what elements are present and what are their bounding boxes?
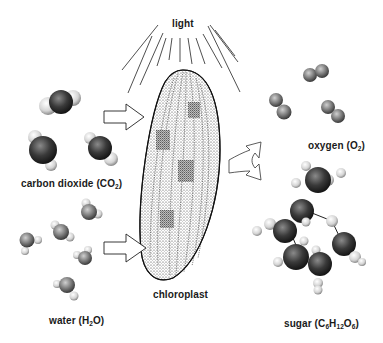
water-molecule <box>73 246 92 265</box>
label-sugar: sugar (C6H12O6) <box>284 318 359 329</box>
arrow-co2-in <box>104 104 144 130</box>
sugar-molecule <box>252 161 366 295</box>
o2-molecule <box>321 100 345 123</box>
co2-close: ) <box>119 178 122 189</box>
water-molecule <box>81 199 103 221</box>
co2-molecule <box>39 90 81 115</box>
water-molecule <box>51 221 75 242</box>
label-chloroplast: chloroplast <box>153 289 208 300</box>
photosynthesis-diagram: light carbon dioxide (CO2) water (H2O) c… <box>0 0 383 343</box>
sugar-sub-o: 6 <box>352 323 356 330</box>
chloroplast-text: chloroplast <box>153 289 208 300</box>
oxygen-name: oxygen (O <box>308 140 358 151</box>
water-subscript: 2 <box>89 320 93 327</box>
water-molecule <box>53 277 79 301</box>
label-light: light <box>172 18 194 29</box>
sugar-prefix: sugar (C <box>284 318 325 329</box>
sugar-o: O <box>344 318 352 329</box>
oxygen-close: ) <box>362 140 365 151</box>
water-name: water (H <box>49 315 89 326</box>
label-oxygen: oxygen (O2) <box>308 140 365 151</box>
sugar-sub-c: 6 <box>325 323 329 330</box>
sugar-close: ) <box>355 318 358 329</box>
label-carbon-dioxide: carbon dioxide (CO2) <box>21 178 122 189</box>
chloroplast <box>140 70 220 280</box>
light-text: light <box>172 18 194 29</box>
o2-molecule <box>303 64 329 82</box>
oxygen-subscript: 2 <box>358 145 362 152</box>
water-rest: O) <box>93 315 104 326</box>
arrow-products-out <box>229 142 261 180</box>
co2-molecule <box>28 130 57 171</box>
sugar-sub-h: 12 <box>336 323 343 330</box>
co2-molecule <box>84 132 118 166</box>
label-water: water (H2O) <box>49 315 104 326</box>
water-molecule <box>20 233 43 256</box>
o2-molecule <box>269 93 292 120</box>
co2-name: carbon dioxide (CO <box>21 178 115 189</box>
co2-subscript: 2 <box>115 183 119 190</box>
